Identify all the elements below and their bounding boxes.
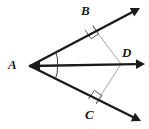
angle-arc-upper — [56, 52, 58, 66]
ray-AC — [30, 66, 133, 117]
vertex-label-B: B — [81, 4, 90, 17]
geometry-diagram: A B C D — [0, 0, 149, 129]
vertex-label-D: D — [122, 46, 131, 59]
ray-AD-arrowhead — [136, 59, 145, 69]
vertex-label-C: C — [85, 108, 94, 121]
rays-group — [30, 8, 145, 121]
segment-CD — [96, 64, 121, 103]
vertex-label-A: A — [8, 58, 17, 71]
geometry-canvas — [0, 0, 149, 129]
angle-arc-lower — [55, 66, 58, 80]
